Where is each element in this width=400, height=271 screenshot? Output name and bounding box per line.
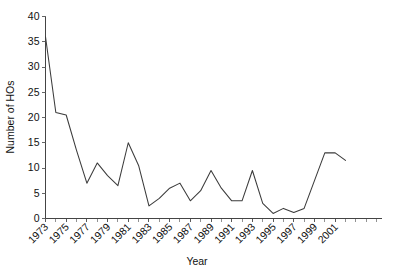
x-tick-label: 1999 <box>294 220 319 245</box>
x-tick-label: 2001 <box>315 220 340 245</box>
x-tick-label: 1997 <box>274 220 299 245</box>
y-tick-label: 5 <box>34 187 40 199</box>
x-axis-tick-labels: 1973197519771979198119831985198719891991… <box>25 220 340 245</box>
y-tick-label: 15 <box>28 136 40 148</box>
x-tick-label: 1979 <box>87 220 112 245</box>
x-tick-label: 1989 <box>191 220 216 245</box>
axes <box>46 17 382 219</box>
x-tick-label: 1973 <box>25 220 50 245</box>
y-tick-label: 20 <box>28 111 40 123</box>
x-tick-label: 1991 <box>212 220 237 245</box>
y-tick-label: 10 <box>28 161 40 173</box>
y-axis-tick-labels: 0510152025303540 <box>28 10 40 224</box>
x-tick-label: 1993 <box>232 220 257 245</box>
y-tick-label: 0 <box>34 212 40 224</box>
x-tick-label: 1985 <box>150 220 175 245</box>
x-tick-label: 1983 <box>129 220 154 245</box>
y-tick-label: 25 <box>28 86 40 98</box>
y-tick-label: 35 <box>28 35 40 47</box>
x-axis-ticks <box>46 219 377 223</box>
x-axis-title: Year <box>186 255 208 267</box>
x-tick-label: 1981 <box>108 220 133 245</box>
chart-canvas: 0510152025303540 19731975197719791981198… <box>0 0 400 271</box>
y-axis-title: Number of HOs <box>4 81 16 154</box>
x-tick-label: 1977 <box>67 220 92 245</box>
data-series-line <box>46 37 346 214</box>
x-tick-label: 1987 <box>170 220 195 245</box>
line-chart: 0510152025303540 19731975197719791981198… <box>0 0 400 271</box>
x-tick-label: 1995 <box>253 220 278 245</box>
y-tick-label: 30 <box>28 60 40 72</box>
x-tick-label: 1975 <box>46 220 71 245</box>
y-tick-label: 40 <box>28 10 40 22</box>
